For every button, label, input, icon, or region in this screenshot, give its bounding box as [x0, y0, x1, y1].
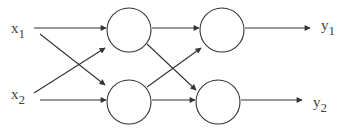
neural-network-diagram: x1x2y1y2 — [0, 0, 341, 131]
node-o2 — [196, 80, 240, 124]
edge-x1-h2 — [40, 34, 105, 85]
node-h1 — [107, 8, 151, 52]
edge-h1-o2 — [147, 44, 196, 90]
output-label-y1: y1 — [321, 17, 335, 38]
edge-x2-h1 — [34, 48, 105, 93]
edges-group — [34, 28, 310, 100]
input-label-x2: x2 — [11, 86, 25, 107]
output-label-y2: y2 — [313, 94, 327, 115]
input-label-x1: x1 — [11, 20, 25, 41]
node-o1 — [200, 8, 244, 52]
edge-h2-o1 — [147, 48, 201, 87]
node-h2 — [107, 80, 151, 124]
